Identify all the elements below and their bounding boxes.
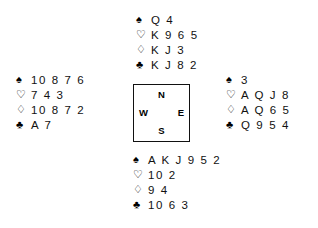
hand-east-hearts-row: ♡ A Q J 8 [226,87,291,102]
hand-south-hearts-row: ♡ 10 2 [133,167,221,182]
hand-east-clubs: Q 9 5 4 [241,119,290,131]
compass-label-east: E [178,108,184,118]
hand-south-spades-row: ♠ A K J 9 5 2 [133,152,221,167]
hand-west-hearts: 7 4 3 [31,89,65,101]
hand-south-diamonds-row: ♢ 9 4 [133,182,221,197]
diamond-icon: ♢ [16,104,27,115]
hand-south-diamonds: 9 4 [148,184,169,196]
hand-south-clubs: 10 6 3 [148,199,190,211]
hand-north-diamonds-row: ♢ K J 3 [136,42,199,57]
hand-east: ♠ 3 ♡ A Q J 8 ♢ A Q 6 5 ♣ Q 9 5 4 [226,72,291,132]
hand-north-hearts: K 9 6 5 [151,29,199,41]
hand-west-spades: 10 8 7 6 [31,74,85,86]
hand-south-hearts: 10 2 [148,169,177,181]
club-icon: ♣ [16,119,27,130]
hand-west: ♠ 10 8 7 6 ♡ 7 4 3 ♢ 10 8 7 2 ♣ A 7 [16,72,85,132]
hand-north-hearts-row: ♡ K 9 6 5 [136,27,199,42]
hand-north: ♠ Q 4 ♡ K 9 6 5 ♢ K J 3 ♣ K J 8 2 [136,12,199,72]
heart-icon: ♡ [133,169,144,180]
diamond-icon: ♢ [133,184,144,195]
diamond-icon: ♢ [226,104,237,115]
compass-label-north: N [158,90,165,100]
bridge-deal-diagram: ♠ Q 4 ♡ K 9 6 5 ♢ K J 3 ♣ K J 8 2 ♠ 10 8… [0,0,318,228]
club-icon: ♣ [226,119,237,130]
compass-label-west: W [139,108,148,118]
hand-east-spades: 3 [241,74,249,86]
hand-north-clubs: K J 8 2 [151,59,198,71]
hand-south: ♠ A K J 9 5 2 ♡ 10 2 ♢ 9 4 ♣ 10 6 3 [133,152,221,212]
spade-icon: ♠ [133,154,144,165]
spade-icon: ♠ [226,74,237,85]
hand-west-diamonds: 10 8 7 2 [31,104,85,116]
spade-icon: ♠ [136,14,147,25]
hand-east-diamonds: A Q 6 5 [241,104,291,116]
hand-west-spades-row: ♠ 10 8 7 6 [16,72,85,87]
hand-north-diamonds: K J 3 [151,44,185,56]
compass-box: N W E S [133,84,190,142]
hand-east-diamonds-row: ♢ A Q 6 5 [226,102,291,117]
compass-label-south: S [158,126,164,136]
hand-north-spades: Q 4 [151,14,174,26]
hand-north-spades-row: ♠ Q 4 [136,12,199,27]
hand-west-diamonds-row: ♢ 10 8 7 2 [16,102,85,117]
diamond-icon: ♢ [136,44,147,55]
spade-icon: ♠ [16,74,27,85]
hand-south-clubs-row: ♣ 10 6 3 [133,197,221,212]
hand-north-clubs-row: ♣ K J 8 2 [136,57,199,72]
hand-east-hearts: A Q J 8 [241,89,290,101]
hand-east-clubs-row: ♣ Q 9 5 4 [226,117,291,132]
hand-west-clubs-row: ♣ A 7 [16,117,85,132]
hand-east-spades-row: ♠ 3 [226,72,291,87]
heart-icon: ♡ [136,29,147,40]
hand-west-clubs: A 7 [31,119,52,131]
club-icon: ♣ [133,199,144,210]
heart-icon: ♡ [16,89,27,100]
hand-south-spades: A K J 9 5 2 [148,154,221,166]
hand-west-hearts-row: ♡ 7 4 3 [16,87,85,102]
club-icon: ♣ [136,59,147,70]
heart-icon: ♡ [226,89,237,100]
